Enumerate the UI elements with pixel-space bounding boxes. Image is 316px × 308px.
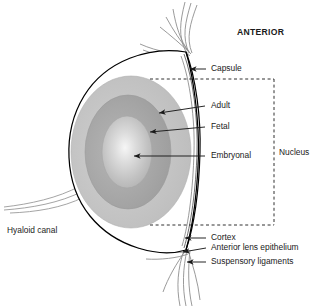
fetal-label: Fetal — [211, 122, 230, 130]
suspensory-ligaments-label: Suspensory ligaments — [211, 257, 293, 265]
cortex-label: Cortex — [211, 233, 236, 241]
embryonal-label: Embryonal — [211, 151, 251, 159]
anterior-lens-epithelium-label: Anterior lens epithelium — [211, 243, 299, 251]
zonular-fibers-top — [160, 2, 197, 54]
capsule-label: Capsule — [211, 64, 242, 72]
hyaloid-canal-label: Hyaloid canal — [7, 226, 57, 234]
nucleus-label: Nucleus — [279, 148, 309, 156]
lens-anatomy-figure: ANTERIOR Capsule Adult Fetal Embryonal N… — [0, 0, 316, 308]
anterior-label: ANTERIOR — [237, 28, 284, 37]
adult-label: Adult — [211, 101, 230, 109]
embryonal-nucleus-core — [102, 116, 152, 188]
